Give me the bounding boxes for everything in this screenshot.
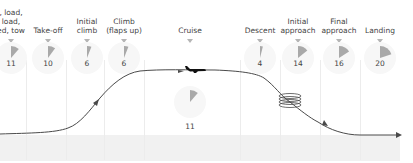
pie-wedge-icon [0, 42, 27, 74]
phase-value: 11 [160, 122, 220, 131]
pie-wedge-icon [323, 42, 355, 74]
phase-label: Landing [350, 26, 410, 35]
phase-value: 6 [94, 59, 154, 68]
airplane-icon [185, 66, 206, 73]
pie-wedge-icon [108, 42, 140, 74]
cruise-stat: 11 [174, 86, 206, 118]
pie-wedge-icon [71, 42, 103, 74]
phase-label: Cruise [160, 26, 220, 35]
phase-value: 20 [350, 59, 410, 68]
pie-wedge-icon [364, 42, 396, 74]
pie-wedge-icon [244, 42, 276, 74]
pie-wedge-icon [282, 42, 314, 74]
phase-label: Climb (flaps up) [94, 17, 154, 35]
arrow-down-icon [187, 39, 193, 43]
pie-wedge-icon [174, 86, 206, 118]
pie-wedge-icon [32, 42, 64, 74]
